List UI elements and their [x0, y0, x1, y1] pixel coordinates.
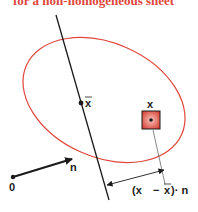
- neutral-axis-line: [56, 15, 109, 200]
- svg-text:−: −: [153, 184, 159, 196]
- svg-text:(x: (x: [132, 184, 143, 196]
- svg-text:)· n: )· n: [171, 184, 188, 196]
- leader-line: [153, 130, 165, 184]
- sheet-ellipse: [3, 13, 198, 186]
- normal-label: n: [70, 161, 77, 173]
- svg-text:x: x: [164, 184, 171, 196]
- element-dot: [149, 118, 153, 122]
- distance-dimension-arrow: [107, 170, 164, 185]
- diagram-canvas: x x (x − x )· n 0 n: [0, 0, 198, 212]
- distance-label: (x − x )· n: [132, 184, 188, 196]
- point-label: x: [147, 98, 154, 110]
- normal-vector-arrow: [13, 159, 72, 177]
- centroid-label: x: [85, 97, 92, 109]
- origin-label: 0: [9, 181, 15, 193]
- centroid-dot: [79, 101, 84, 106]
